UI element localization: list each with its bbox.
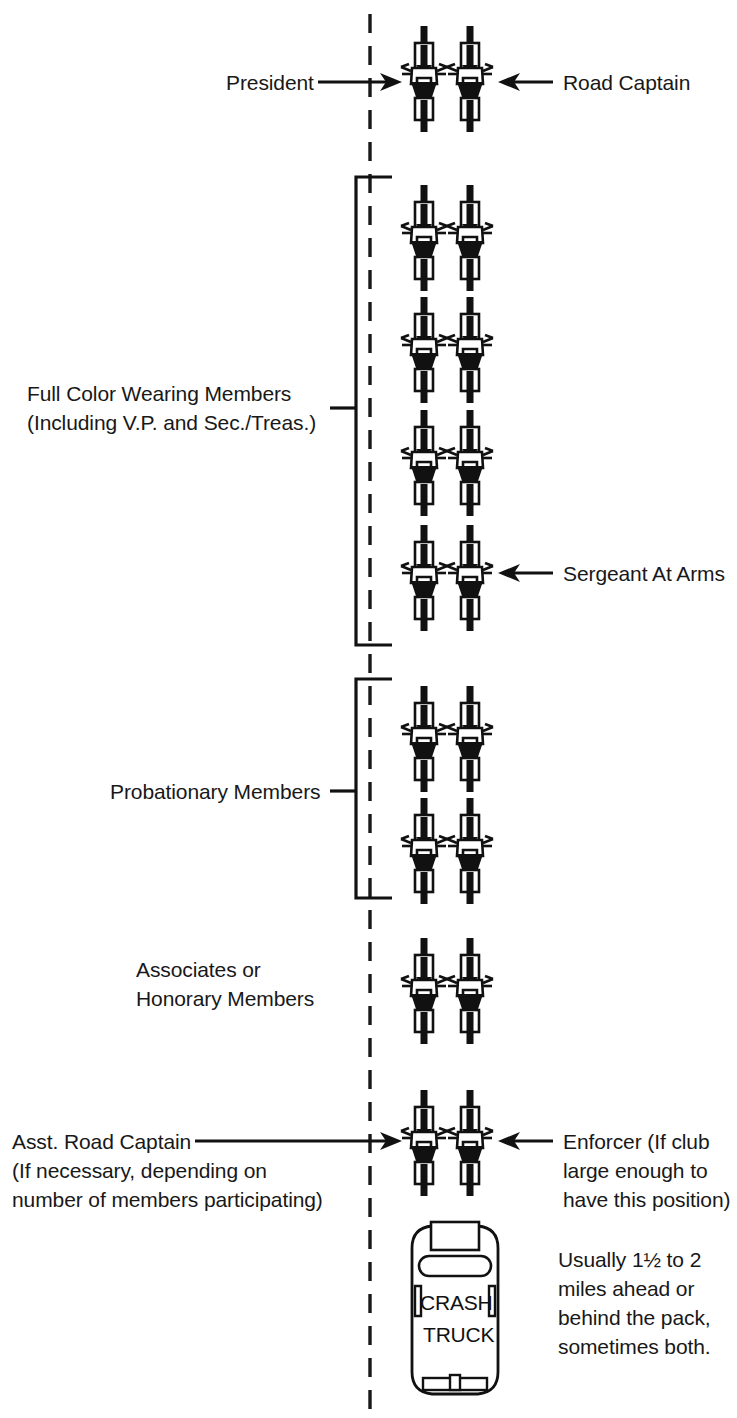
road-captain-leader-line bbox=[498, 73, 553, 91]
bike-group-full-color bbox=[401, 185, 493, 631]
formation-diagram: President Road Captain Full Color Wearin… bbox=[0, 0, 737, 1418]
bike-group-probationary bbox=[401, 686, 493, 904]
label-full-color-members-line2: (Including V.P. and Sec./Treas.) bbox=[27, 408, 316, 437]
bike-row-leadership bbox=[401, 26, 493, 132]
truck-label-truck: TRUCK bbox=[423, 1322, 494, 1347]
label-crash-truck-note-line3: behind the pack, bbox=[558, 1303, 711, 1332]
label-associates-line2: Honorary Members bbox=[136, 984, 314, 1013]
label-enforcer-line1: Enforcer (If club bbox=[563, 1127, 710, 1156]
enforcer-leader-line bbox=[498, 1132, 553, 1150]
bracket-full-color bbox=[330, 177, 392, 645]
label-crash-truck-note-line4: sometimes both. bbox=[558, 1332, 711, 1361]
bracket-probationary bbox=[330, 679, 392, 898]
label-road-captain: Road Captain bbox=[563, 68, 690, 97]
label-enforcer-line2: large enough to bbox=[563, 1156, 707, 1185]
label-asst-road-captain-line1: Asst. Road Captain bbox=[12, 1127, 191, 1156]
bike-group-trailing-officers bbox=[401, 1090, 493, 1196]
label-president: President bbox=[226, 68, 314, 97]
label-sergeant-at-arms: Sergeant At Arms bbox=[563, 559, 725, 588]
label-enforcer-line3: have this position) bbox=[563, 1185, 730, 1214]
label-crash-truck-note-line2: miles ahead or bbox=[558, 1274, 694, 1303]
label-asst-road-captain-line3: number of members participating) bbox=[12, 1185, 323, 1214]
label-probationary-members: Probationary Members bbox=[110, 777, 320, 806]
label-associates-line1: Associates or bbox=[136, 955, 261, 984]
truck-label-crash: CRASH bbox=[420, 1290, 493, 1315]
label-full-color-members-line1: Full Color Wearing Members bbox=[27, 379, 291, 408]
president-leader-line bbox=[318, 73, 402, 91]
label-crash-truck-note-line1: Usually 1½ to 2 bbox=[558, 1245, 701, 1274]
sergeant-at-arms-leader-line bbox=[498, 564, 553, 582]
bike-group-associates bbox=[401, 938, 493, 1044]
label-asst-road-captain-line2: (If necessary, depending on bbox=[12, 1156, 267, 1185]
